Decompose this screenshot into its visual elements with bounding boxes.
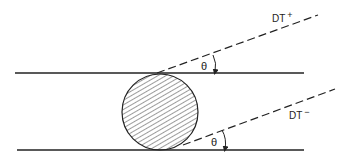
- dt-minus-sup: −: [304, 107, 309, 117]
- theta-label-bottom: θ: [211, 136, 217, 148]
- dt-plus-text: DT: [272, 13, 285, 24]
- dt-minus-text: DT: [289, 110, 302, 121]
- dt-minus-label: DT−: [289, 107, 310, 121]
- diagram-canvas: θ θ DT+ DT−: [0, 0, 347, 160]
- theta-arc-top-icon: [213, 55, 216, 72]
- dt-plus-sup: +: [287, 10, 292, 20]
- dt-plus-line: [157, 15, 318, 73]
- dt-plus-label: DT+: [272, 10, 293, 24]
- theta-arc-bottom-icon: [222, 130, 226, 149]
- theta-label-top: θ: [201, 60, 207, 72]
- hatched-circle: [122, 74, 198, 150]
- dt-minus-line: [183, 89, 335, 145]
